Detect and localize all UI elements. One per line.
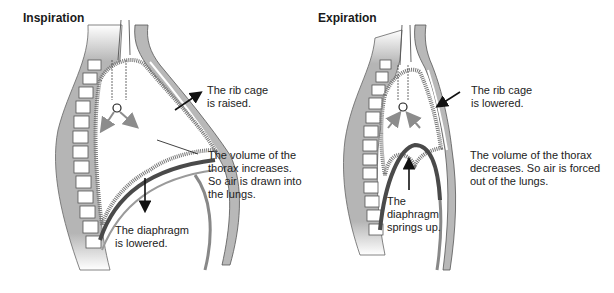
thoracic-cavity [96,60,215,225]
inspiration-diaphragm-label: The diaphragm is lowered. [115,224,189,250]
expiration-rib-cage-label: The rib cage is lowered. [471,84,532,110]
inspiration-volume-label: The volume of the thorax increases. So a… [208,149,302,201]
respiration-diagram [0,0,614,293]
expiration-title: Expiration [318,11,377,25]
expiration-diaphragm-label: The diaphragm springs up. [387,195,441,234]
expiration-volume-label: The volume of the thorax decreases. So a… [470,149,600,188]
inspiration-rib-cage-label: The rib cage is raised. [207,84,268,110]
inspiration-title: Inspiration [23,11,84,25]
